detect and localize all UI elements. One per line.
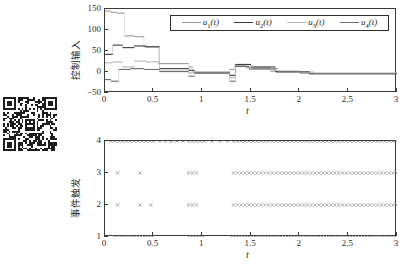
event-marker: [360, 203, 363, 206]
control-input-plot-panel: 控制输入 00.511.522.53−50050100150 t u1(t) u…: [62, 2, 407, 124]
event-marker: [226, 141, 229, 143]
x-tick-mark: [396, 88, 397, 92]
x-tick-label: 2.5: [333, 94, 361, 104]
event-marker: [364, 171, 367, 174]
event-marker: [243, 141, 246, 143]
event-marker: [345, 203, 348, 206]
event-marker: [175, 141, 178, 143]
event-marker: [302, 141, 305, 143]
event-marker: [395, 171, 397, 174]
event-marker: [164, 141, 167, 143]
event-marker: [255, 171, 258, 174]
event-series-agent-3: [116, 171, 397, 174]
event-marker: [267, 141, 270, 143]
y-tick-mark: [104, 172, 108, 173]
event-marker: [138, 203, 141, 206]
event-trigger-series-svg: [105, 141, 397, 237]
event-marker: [195, 203, 198, 206]
event-marker: [267, 203, 270, 206]
event-marker: [294, 141, 297, 143]
figure-root: 控制输入 00.511.522.53−50050100150 t u1(t) u…: [0, 0, 411, 270]
event-marker: [384, 171, 387, 174]
series-u4(t): [105, 67, 397, 82]
event-marker: [341, 203, 344, 206]
event-marker: [279, 203, 282, 206]
event-marker: [352, 203, 355, 206]
event-marker: [133, 141, 136, 143]
event-marker: [240, 203, 243, 206]
legend-entry-u3: u3(t): [287, 17, 324, 29]
event-marker: [368, 171, 371, 174]
event-marker: [356, 203, 359, 206]
event-marker: [380, 141, 383, 143]
y-tick-label: 50: [68, 45, 101, 55]
event-marker: [364, 203, 367, 206]
event-marker: [317, 141, 320, 143]
event-marker: [202, 235, 205, 237]
event-marker: [271, 141, 274, 143]
event-marker: [376, 171, 379, 174]
y-tick-label: 4: [68, 135, 101, 145]
series-u2(t): [105, 45, 397, 75]
x-tick-mark: [347, 88, 348, 92]
legend-entry-u4: u4(t): [340, 17, 377, 29]
event-marker: [333, 171, 336, 174]
y-tick-mark: [104, 71, 108, 72]
event-marker: [321, 203, 324, 206]
event-marker: [169, 141, 172, 143]
event-marker: [298, 171, 301, 174]
event-marker: [121, 141, 124, 143]
event-marker: [116, 203, 119, 206]
event-marker: [317, 203, 320, 206]
event-trigger-x-axis-label: t: [246, 249, 249, 260]
event-marker: [337, 141, 340, 143]
x-tick-mark: [298, 88, 299, 92]
x-tick-label: 0.5: [139, 238, 167, 248]
x-tick-label: 1: [187, 238, 215, 248]
legend-line-u1: [182, 22, 201, 23]
event-marker: [325, 171, 328, 174]
event-marker: [349, 141, 352, 143]
event-marker: [333, 141, 336, 143]
event-marker: [116, 171, 119, 174]
event-marker: [109, 141, 112, 143]
event-marker: [356, 171, 359, 174]
event-trigger-plot-area: [104, 140, 396, 236]
x-tick-label: 1.5: [236, 238, 264, 248]
event-marker: [113, 141, 116, 143]
event-series-agent-4: [109, 141, 397, 143]
event-marker: [187, 171, 190, 174]
event-marker: [310, 171, 313, 174]
event-marker: [286, 171, 289, 174]
event-marker: [349, 203, 352, 206]
event-marker: [352, 141, 355, 143]
event-marker: [282, 141, 285, 143]
event-marker: [240, 171, 243, 174]
event-marker: [181, 141, 184, 143]
event-marker: [360, 171, 363, 174]
event-series-agent-1: [113, 235, 397, 237]
event-marker: [333, 203, 336, 206]
event-marker: [191, 171, 194, 174]
event-marker: [129, 141, 132, 143]
legend-label-u1: u1(t): [203, 17, 219, 29]
event-marker: [255, 203, 258, 206]
event-marker: [263, 203, 266, 206]
event-marker: [191, 203, 194, 206]
event-marker: [218, 141, 221, 143]
legend-line-u3: [287, 22, 306, 23]
event-marker: [158, 141, 161, 143]
event-marker: [325, 141, 328, 143]
y-tick-label: 0: [68, 66, 101, 76]
event-marker: [232, 171, 235, 174]
event-marker: [321, 171, 324, 174]
event-marker: [391, 203, 394, 206]
event-marker: [368, 141, 371, 143]
event-marker: [279, 141, 282, 143]
legend-label-u4: u4(t): [361, 17, 377, 29]
event-marker: [251, 171, 254, 174]
event-marker: [282, 203, 285, 206]
event-marker: [321, 141, 324, 143]
event-marker: [243, 203, 246, 206]
x-tick-mark: [152, 88, 153, 92]
